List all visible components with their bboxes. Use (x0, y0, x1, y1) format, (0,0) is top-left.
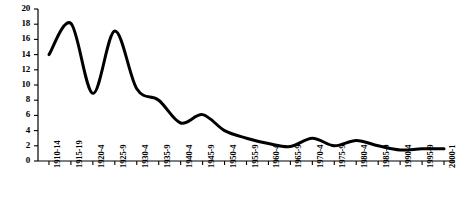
y-axis-tick-label: 2 (10, 141, 30, 150)
x-axis-tick-label: 1920-4 (97, 145, 106, 168)
x-axis-tick-label: 1970-4 (316, 145, 325, 168)
y-axis-tick-label: 6 (10, 110, 30, 119)
x-axis-tick-label: 1980-4 (360, 145, 369, 168)
x-axis-tick-label: 1965-9 (294, 145, 303, 168)
y-axis-tick-label: 4 (10, 126, 30, 135)
y-axis-tick-label: 14 (10, 50, 30, 59)
y-axis-tick-label: 18 (10, 19, 30, 28)
x-axis-tick-label: 1985-9 (382, 145, 391, 168)
x-axis-tick-label: 1930-4 (141, 145, 150, 168)
x-axis-tick-label: 1945-9 (207, 145, 216, 168)
x-axis-tick-label: 1960-4 (272, 145, 281, 168)
y-axis-tick-label: 16 (10, 34, 30, 43)
x-axis-tick-label: 1995-9 (426, 145, 435, 168)
y-axis-tick-label: 12 (10, 65, 30, 74)
chart-plot-area (0, 0, 471, 211)
x-axis-tick-label: 1915-19 (75, 140, 84, 168)
x-axis-tick-label: 2000-1 (448, 145, 457, 168)
y-axis-tick-label: 10 (10, 80, 30, 89)
chart-figure: 02468101214161820 1910-141915-191920-419… (0, 0, 471, 211)
x-axis-tick-label: 1975-9 (338, 145, 347, 168)
y-axis-tick-label: 8 (10, 95, 30, 104)
x-axis-tick-label: 1955-9 (251, 145, 260, 168)
x-axis-tick-label: 1935-9 (163, 145, 172, 168)
y-axis-tick-label: 0 (10, 156, 30, 165)
x-axis-tick-label: 1910-14 (53, 140, 62, 168)
x-axis-tick-label: 1950-4 (229, 145, 238, 168)
y-axis-tick-label: 20 (10, 4, 30, 13)
x-axis-tick-label: 1925-9 (119, 145, 128, 168)
x-axis-tick-label: 1990-4 (404, 145, 413, 168)
data-line-series-1 (49, 23, 444, 150)
x-axis-tick-label: 1940-4 (185, 145, 194, 168)
